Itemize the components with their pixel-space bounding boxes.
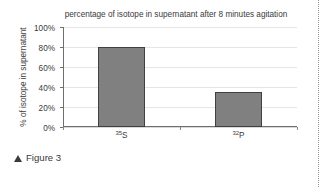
triangle-up-icon	[14, 155, 22, 162]
y-axis-tick-label: 80%	[39, 44, 55, 53]
plot-area: 0%20%40%60%80%100%	[63, 27, 297, 127]
x-axis-category-label: 32P	[232, 131, 244, 141]
x-axis-labels: 35S32P	[63, 131, 297, 145]
chart-title: percentage of isotope in supernatant aft…	[40, 10, 312, 20]
y-axis-tick-label: 60%	[39, 64, 55, 73]
page-margin-dotted-rule	[318, 0, 319, 187]
bar-series	[63, 27, 297, 127]
figure-caption-text: Figure 3	[26, 152, 61, 164]
y-axis-tick-label: 100%	[34, 24, 55, 33]
bar	[215, 92, 262, 127]
figure-page: percentage of isotope in supernatant aft…	[0, 0, 331, 187]
x-axis-category-label: 35S	[115, 131, 127, 141]
y-axis-tick-label: 40%	[39, 84, 55, 93]
x-axis-tick	[63, 127, 64, 130]
y-axis-title: % of isotope in supernatant	[19, 22, 29, 132]
y-axis-tick-label: 20%	[39, 104, 55, 113]
figure-3: percentage of isotope in supernatant aft…	[0, 0, 312, 187]
bar	[98, 47, 145, 127]
x-axis-tick	[180, 127, 181, 130]
y-axis-tick-label: 0%	[43, 124, 55, 133]
x-axis-tick	[297, 127, 298, 130]
figure-caption: Figure 3	[14, 152, 61, 164]
